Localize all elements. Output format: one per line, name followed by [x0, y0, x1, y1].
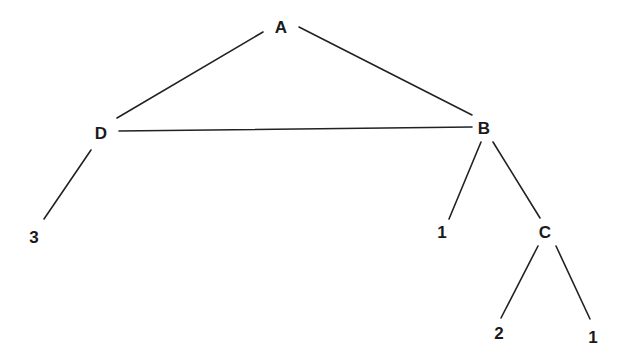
edge-D-leafD3 — [44, 150, 91, 219]
node-leafD3: 3 — [29, 228, 38, 247]
node-leafB1: 1 — [437, 223, 446, 242]
tree-diagram: ADB31C21 — [0, 0, 620, 363]
edge-C-leafC1 — [556, 246, 590, 319]
node-leafC2: 2 — [494, 324, 503, 343]
node-D: D — [95, 124, 107, 143]
node-B: B — [478, 119, 490, 138]
edges-group — [44, 27, 590, 319]
edge-A-B — [299, 27, 472, 115]
edge-B-C — [493, 142, 540, 218]
edge-D-B — [119, 127, 472, 131]
node-C: C — [539, 223, 551, 242]
edge-A-D — [117, 32, 263, 118]
node-A: A — [275, 18, 287, 37]
node-leafC1: 1 — [588, 328, 597, 347]
edge-B-leafB1 — [449, 142, 481, 219]
edge-C-leafC2 — [501, 246, 538, 318]
